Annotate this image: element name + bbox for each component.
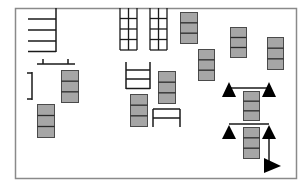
storage-block-8 [268, 38, 284, 70]
storage-block-1 [62, 71, 79, 103]
block-body [62, 71, 79, 103]
station-block [244, 92, 260, 121]
block-body [268, 38, 284, 70]
block-body [38, 105, 55, 138]
station-block [244, 128, 260, 159]
storage-block-5 [131, 95, 148, 127]
block-body [181, 13, 198, 44]
floor-plan-diagram [0, 0, 305, 185]
storage-block-2 [38, 105, 55, 138]
block-body [231, 28, 247, 58]
block-body [199, 50, 215, 81]
storage-block-6 [199, 50, 215, 81]
block-body [159, 72, 176, 104]
storage-block-7 [231, 28, 247, 58]
block-body [131, 95, 148, 127]
block-body [244, 128, 260, 159]
storage-block-3 [181, 13, 198, 44]
block-body [244, 92, 260, 121]
storage-block-4 [159, 72, 176, 104]
